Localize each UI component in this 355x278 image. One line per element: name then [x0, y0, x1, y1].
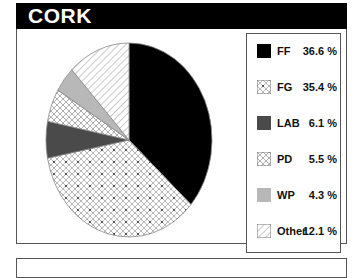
pie-slices: [46, 43, 212, 237]
legend-item-ff: FF 36.6 %: [253, 44, 337, 60]
legend-label: FF: [277, 45, 290, 57]
swatch-other: [257, 224, 271, 238]
legend-item-pd: PD 5.5 %: [253, 152, 337, 168]
legend-label: PD: [277, 153, 292, 165]
legend-label: FG: [277, 81, 292, 93]
legend-value: 12.1 %: [303, 225, 337, 237]
legend-item-wp: WP 4.3 %: [253, 188, 337, 204]
legend-item-lab: LAB 6.1 %: [253, 116, 337, 132]
swatch-fg: [257, 80, 271, 94]
swatch-lab: [257, 116, 271, 130]
legend-label: WP: [277, 189, 295, 201]
legend-item-fg: FG 35.4 %: [253, 80, 337, 96]
legend-label: LAB: [277, 117, 300, 129]
swatch-pd: [257, 152, 271, 166]
legend-value: 36.6 %: [303, 45, 337, 57]
legend-value: 6.1 %: [309, 117, 337, 129]
legend: FF 36.6 % FG 35.4 % LAB 6.1 % PD 5.5 % W…: [246, 33, 341, 253]
swatch-wp: [257, 188, 271, 202]
legend-value: 35.4 %: [303, 81, 337, 93]
next-panel: [16, 258, 347, 278]
legend-value: 4.3 %: [309, 189, 337, 201]
legend-value: 5.5 %: [309, 153, 337, 165]
legend-item-other: Other 12.1 %: [253, 224, 337, 240]
swatch-ff: [257, 44, 271, 58]
